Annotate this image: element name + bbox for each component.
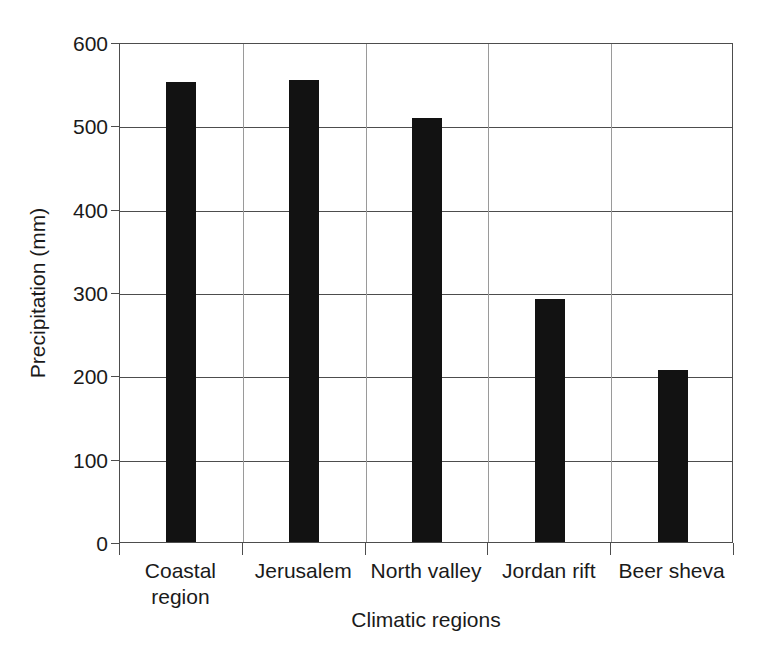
y-axis-tick-label: 500 <box>46 116 108 137</box>
bar-chart-figure: Precipitation (mm) 0100200300400500600 C… <box>0 0 769 667</box>
x-axis-category-label: Jerusalem <box>242 558 365 584</box>
x-axis-category-label: Coastal region <box>119 558 242 609</box>
x-axis-category-label: Beer sheva <box>610 558 733 584</box>
x-axis-tick-mark <box>733 543 734 555</box>
bar[interactable] <box>658 370 688 542</box>
y-axis-tick-label: 600 <box>46 33 108 54</box>
x-axis-category-label: Jordan rift <box>487 558 610 584</box>
bar[interactable] <box>289 80 319 543</box>
y-axis-tick-label: 200 <box>46 366 108 387</box>
x-axis-tick-mark <box>487 543 488 555</box>
x-axis-category-label: North valley <box>365 558 488 584</box>
bar[interactable] <box>412 118 442 542</box>
bar[interactable] <box>535 299 565 542</box>
x-axis-tick-mark <box>242 543 243 555</box>
category-separator-line <box>488 44 489 542</box>
y-axis-tick-label: 0 <box>46 533 108 554</box>
bar[interactable] <box>166 82 196 542</box>
category-separator-line <box>611 44 612 542</box>
category-separator-line <box>243 44 244 542</box>
category-separator-line <box>366 44 367 542</box>
x-axis-title: Climatic regions <box>119 608 733 632</box>
x-axis-tick-mark <box>365 543 366 555</box>
plot-area <box>119 43 733 543</box>
y-axis-tick-labels: 0100200300400500600 <box>46 0 108 667</box>
y-axis-tick-label: 400 <box>46 199 108 220</box>
y-axis-tick-label: 300 <box>46 283 108 304</box>
x-axis-tick-mark <box>119 543 120 555</box>
x-axis-tick-mark <box>610 543 611 555</box>
y-axis-tick-label: 100 <box>46 449 108 470</box>
